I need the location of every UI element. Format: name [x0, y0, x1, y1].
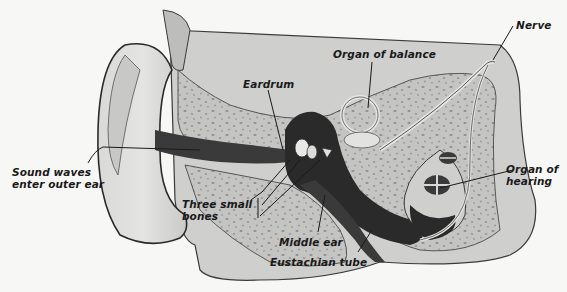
- label-nerve: Nerve: [516, 19, 552, 31]
- ear-cross-section-diagram: [0, 0, 567, 292]
- label-organ-of-balance: Organ of balance: [333, 48, 436, 60]
- label-organ-of-hearing: Organ of hearing: [506, 163, 558, 187]
- label-eardrum: Eardrum: [243, 78, 294, 90]
- label-eustachian-tube: Eustachian tube: [270, 256, 367, 268]
- label-middle-ear: Middle ear: [279, 236, 343, 248]
- label-three-small-bones: Three small bones: [182, 198, 252, 222]
- label-sound-waves: Sound waves enter outer ear: [12, 166, 104, 190]
